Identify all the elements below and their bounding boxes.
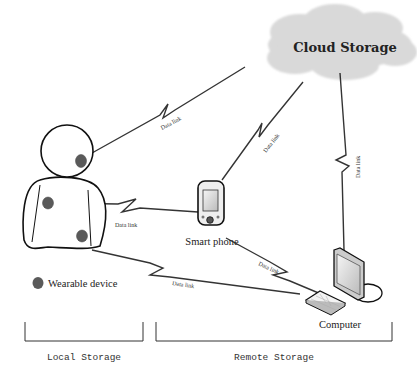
- local-storage-label: Local Storage: [47, 352, 121, 363]
- data-link-person-cloud: Data link: [92, 67, 245, 153]
- smartphone-icon: [198, 181, 224, 225]
- legend: Wearable device: [33, 277, 118, 289]
- local-storage-bracket: [25, 322, 143, 341]
- data-link-label: Data link: [172, 280, 195, 289]
- data-link-label: Data link: [355, 156, 361, 178]
- keyboard-icon: [306, 291, 345, 315]
- data-link-label: Data link: [258, 260, 281, 275]
- wearable-device-chest: [43, 197, 54, 209]
- data-link-label: Data link: [115, 222, 137, 228]
- person-head: [41, 125, 93, 177]
- data-link-phone-cloud: Data link: [222, 82, 303, 180]
- data-link-label: Data link: [262, 132, 280, 153]
- person-body: [23, 177, 106, 248]
- wearable-device-hip: [77, 230, 88, 242]
- person-figure: [23, 125, 106, 248]
- smartphone-label: Smart phone: [185, 236, 239, 247]
- computer-icon: [306, 248, 382, 315]
- data-link-computer-cloud: Data link: [336, 73, 361, 250]
- cloud-storage: Cloud Storage: [267, 4, 417, 80]
- legend-wearable-label: Wearable device: [48, 278, 118, 289]
- computer-label: Computer: [319, 319, 361, 330]
- remote-storage-label: Remote Storage: [234, 352, 314, 363]
- data-link-person-computer: Data link: [92, 250, 300, 294]
- wearable-device-head: [76, 155, 87, 168]
- wearable-device-legend-marker: [33, 277, 44, 289]
- cloud-storage-label: Cloud Storage: [293, 40, 397, 55]
